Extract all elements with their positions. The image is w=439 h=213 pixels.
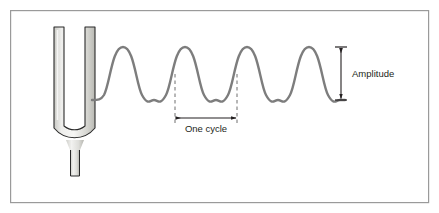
amplitude-label: Amplitude xyxy=(352,68,394,79)
figure-container: One cycle Amplitude xyxy=(0,0,439,213)
one-cycle-label: One cycle xyxy=(185,123,227,134)
diagram-canvas: One cycle Amplitude xyxy=(0,0,439,213)
